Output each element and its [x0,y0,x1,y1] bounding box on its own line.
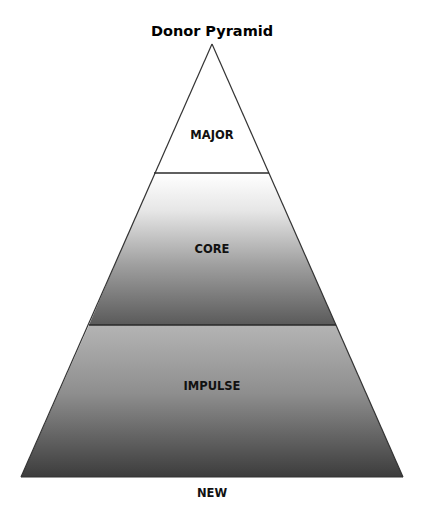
donor-pyramid-diagram [0,0,425,531]
tier-major-shape [154,44,269,173]
tier-core-label: CORE [195,242,230,256]
tier-impulse-label: IMPULSE [184,379,241,393]
diagram-title: Donor Pyramid [151,23,273,39]
tier-major-label: MAJOR [190,128,233,142]
base-label-new: NEW [197,486,227,500]
